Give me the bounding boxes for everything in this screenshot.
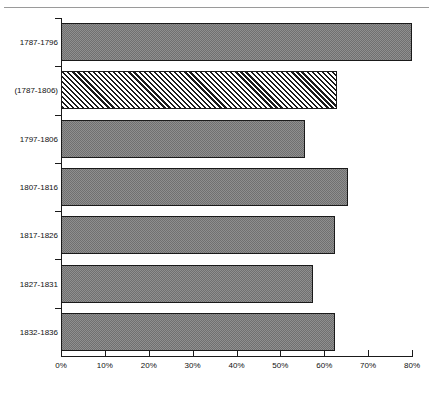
x-axis-tick [61, 350, 62, 357]
chart-page: 0%10%20%30%40%50%60%70%80%1787-1796(1787… [0, 0, 433, 398]
x-axis-tick [324, 350, 325, 357]
x-axis-tick-label: 20% [141, 361, 157, 370]
y-axis-category-label: 1807-1816 [20, 183, 58, 192]
x-axis-tick-label: 10% [97, 361, 113, 370]
bar-1817-1826 [61, 216, 335, 254]
x-axis-tick [412, 350, 413, 357]
bar-1787-1806 [61, 71, 337, 109]
y-axis-tick [55, 115, 62, 116]
y-axis-category-label: 1832-1836 [20, 327, 58, 336]
bar-1807-1816 [61, 168, 348, 206]
y-axis-tick [55, 18, 62, 19]
x-axis-tick-label: 30% [185, 361, 201, 370]
x-axis-tick-label: 60% [316, 361, 332, 370]
y-axis-tick [55, 163, 62, 164]
x-axis-tick-label: 70% [360, 361, 376, 370]
y-axis-category-label: 1817-1826 [20, 231, 58, 240]
y-axis-category-label: 1787-1796 [20, 38, 58, 47]
y-axis-tick [55, 259, 62, 260]
y-axis-tick [55, 66, 62, 67]
x-axis-tick-label: 0% [55, 361, 67, 370]
x-axis-tick [368, 350, 369, 357]
y-axis-tick [55, 308, 62, 309]
x-axis-tick [149, 350, 150, 357]
bar-chart-plot-area: 0%10%20%30%40%50%60%70%80%1787-1796(1787… [0, 0, 433, 398]
x-axis-tick-label: 50% [272, 361, 288, 370]
bar-1787-1796 [61, 23, 412, 61]
x-axis-tick [237, 350, 238, 357]
y-axis-category-label: 1797-1806 [20, 134, 58, 143]
x-axis-tick-label: 80% [404, 361, 420, 370]
x-axis-tick [105, 350, 106, 357]
y-axis-category-label: (1787-1806) [14, 86, 58, 95]
bar-1832-1836 [61, 313, 335, 351]
x-axis-tick [280, 350, 281, 357]
x-axis-tick-label: 40% [228, 361, 244, 370]
bar-1797-1806 [61, 120, 305, 158]
y-axis-category-label: 1827-1831 [20, 279, 58, 288]
x-axis-tick [193, 350, 194, 357]
y-axis-tick [55, 211, 62, 212]
bar-1827-1831 [61, 265, 313, 303]
